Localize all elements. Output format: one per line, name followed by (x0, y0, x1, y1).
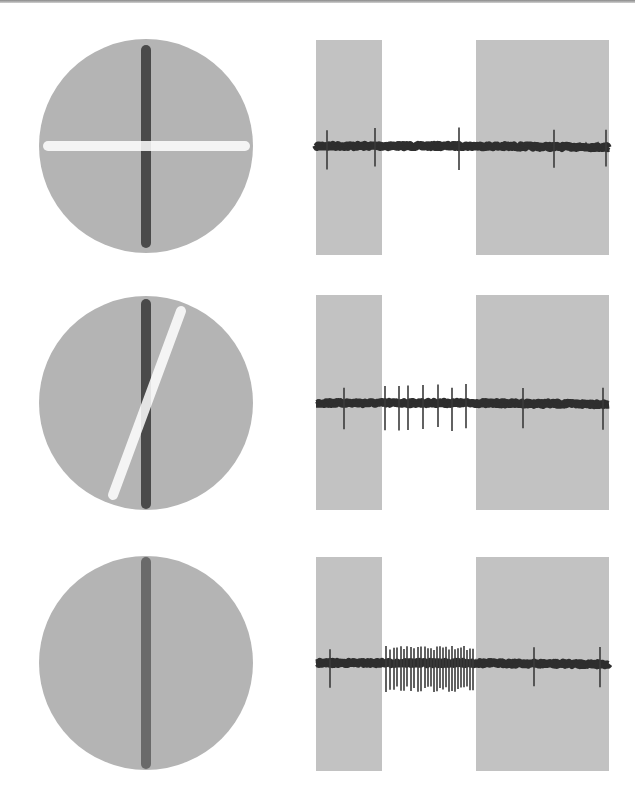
figure-canvas (0, 0, 635, 805)
spike-trace-panel (316, 295, 609, 510)
stimulus-diagram (39, 296, 253, 510)
figure-row-1 (39, 39, 609, 255)
stimulus-diagram (39, 556, 253, 770)
figure-row-2 (39, 295, 609, 510)
spike-trace-panel (316, 557, 609, 771)
stimulus-diagram (39, 39, 253, 253)
stimulus-response-figure (0, 0, 635, 805)
spike-trace-panel (316, 40, 609, 255)
figure-row-3 (39, 556, 609, 771)
